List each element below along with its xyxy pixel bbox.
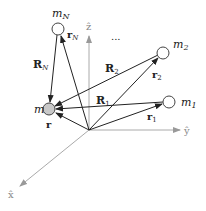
label-m2: m2 xyxy=(173,38,189,52)
body-m2 xyxy=(157,47,169,59)
vector-rN xyxy=(61,36,89,130)
label-m: m xyxy=(34,103,44,116)
vector-r xyxy=(56,113,89,130)
body-mN xyxy=(52,23,64,35)
x-axis xyxy=(20,130,89,186)
x-axis-label: x̂ xyxy=(8,189,14,200)
label-rN: rN xyxy=(67,29,79,42)
y-axis-label: ŷ xyxy=(183,125,190,136)
z-axis-label: ẑ xyxy=(86,21,91,32)
body-m xyxy=(43,103,55,115)
label-R2: R2 xyxy=(105,62,119,76)
label-RN: RN xyxy=(33,58,49,72)
ellipsis: ... xyxy=(111,31,121,42)
body-m1 xyxy=(163,96,175,108)
label-m1: m1 xyxy=(181,96,197,110)
label-r: r xyxy=(46,119,52,130)
diagram-canvas: ẑ ŷ x̂ m r m1 r1 R1 m2 r2 R2 mN rN RN ..… xyxy=(0,0,206,211)
label-mN: mN xyxy=(52,7,70,21)
label-r1: r1 xyxy=(147,111,157,124)
label-r2: r2 xyxy=(152,69,162,82)
vector-RN xyxy=(50,35,57,102)
label-R1: R1 xyxy=(96,94,110,108)
